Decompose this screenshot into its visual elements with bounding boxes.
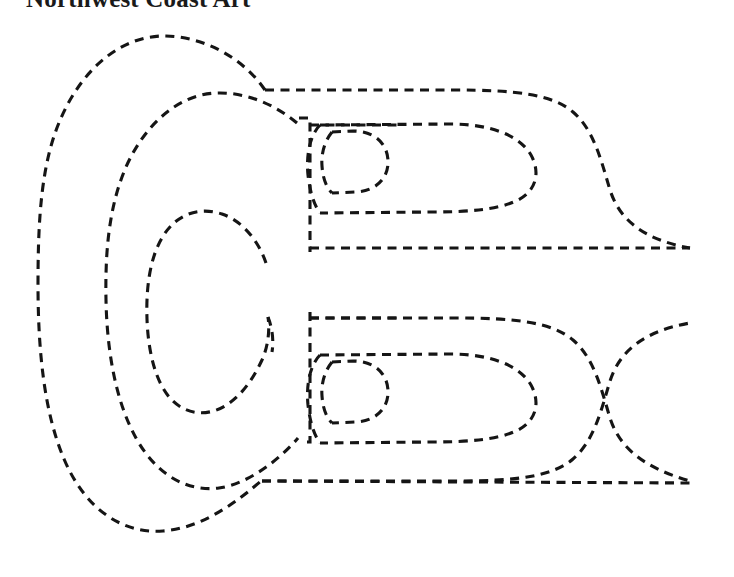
artwork-page: Northwest Coast Art bbox=[0, 0, 734, 577]
lower-terminal-line bbox=[262, 481, 695, 483]
upper-eye-outer bbox=[320, 124, 536, 213]
inner-ovoid bbox=[147, 211, 269, 413]
central-vertical-divider-lower bbox=[302, 312, 310, 442]
lower-eye-inner-left-edge bbox=[322, 362, 332, 423]
lower-wing-upper-sweep bbox=[310, 318, 690, 481]
middle-ovoid bbox=[106, 93, 298, 489]
northwest-coast-formline-artwork bbox=[0, 0, 734, 577]
lower-eye-outer-left-edge bbox=[308, 355, 321, 443]
lower-eye-inner bbox=[332, 361, 388, 423]
upper-eye-inner-left-edge bbox=[322, 132, 332, 193]
upper-eye-inner bbox=[332, 131, 388, 193]
lower-wing-outline bbox=[262, 323, 690, 481]
lower-eye-outer bbox=[320, 354, 536, 443]
outer-ovoid bbox=[38, 36, 265, 531]
upper-wing-outline bbox=[265, 90, 690, 248]
